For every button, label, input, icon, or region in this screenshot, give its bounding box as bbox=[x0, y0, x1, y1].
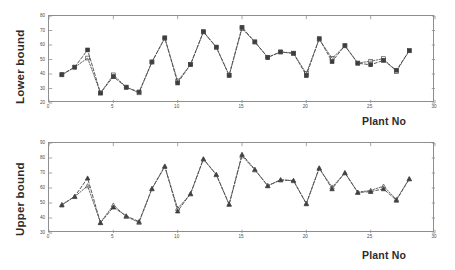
plot-canvas-upper-bound bbox=[49, 143, 435, 233]
y-tick-label: 80 bbox=[32, 155, 45, 160]
y-tick-label: 70 bbox=[32, 27, 45, 32]
x-tick-label: 0 bbox=[47, 234, 50, 239]
x-tick-label: 30 bbox=[431, 104, 436, 109]
chart-panel-lower-bound: Lower bound 20304050607080 051015202530 … bbox=[0, 0, 455, 132]
x-tick-label: 15 bbox=[238, 234, 243, 239]
x-tick-label: 15 bbox=[238, 104, 243, 109]
x-tick-label: 0 bbox=[47, 104, 50, 109]
y-tick-label: 60 bbox=[32, 185, 45, 190]
plot-area-lower-bound bbox=[48, 15, 434, 102]
y-tick-label: 70 bbox=[32, 170, 45, 175]
x-tick-label: 25 bbox=[367, 234, 372, 239]
x-axis-label-upper-bound: Plant No bbox=[362, 249, 406, 261]
x-tick-label: 5 bbox=[111, 104, 114, 109]
y-axis-label-upper-bound: Upper bound bbox=[14, 162, 26, 236]
y-tick-label: 50 bbox=[32, 200, 45, 205]
x-tick-label: 5 bbox=[111, 234, 114, 239]
y-tick-label: 30 bbox=[32, 230, 45, 235]
y-tick-label: 40 bbox=[32, 215, 45, 220]
y-tick-label: 20 bbox=[32, 100, 45, 105]
chart-panel-upper-bound: Upper bound 30405060708090 051015202530 … bbox=[0, 131, 455, 270]
plot-canvas-lower-bound bbox=[49, 16, 435, 103]
x-tick-label: 10 bbox=[174, 234, 179, 239]
x-tick-label: 25 bbox=[367, 104, 372, 109]
figure-container: Lower bound 20304050607080 051015202530 … bbox=[0, 0, 455, 270]
y-tick-label: 30 bbox=[32, 85, 45, 90]
y-tick-label: 90 bbox=[32, 140, 45, 145]
y-axis-label-lower-bound: Lower bound bbox=[14, 30, 26, 104]
x-tick-label: 20 bbox=[303, 104, 308, 109]
y-tick-label: 40 bbox=[32, 71, 45, 76]
y-tick-label: 80 bbox=[32, 13, 45, 18]
plot-area-upper-bound bbox=[48, 142, 434, 232]
y-tick-label: 50 bbox=[32, 56, 45, 61]
x-tick-label: 30 bbox=[431, 234, 436, 239]
x-tick-label: 20 bbox=[303, 234, 308, 239]
x-axis-label-lower-bound: Plant No bbox=[362, 115, 406, 127]
x-tick-label: 10 bbox=[174, 104, 179, 109]
y-tick-label: 60 bbox=[32, 42, 45, 47]
